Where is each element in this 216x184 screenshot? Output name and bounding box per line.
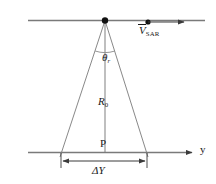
ground-range-axis-label: y (200, 144, 206, 155)
slant-range-subscript: 0 (105, 101, 109, 108)
antenna-apex-dot (102, 17, 108, 23)
look-angle-subscript: r (107, 57, 110, 64)
swath-width-label: ΔY (92, 165, 105, 176)
velocity-symbol: V (139, 24, 146, 36)
target-point-label: P (100, 138, 106, 149)
velocity-label: VSAR (139, 25, 159, 37)
slant-range-label: R0 (98, 96, 108, 108)
sar-geometry-figure: VSAR θr R0 P ΔY y (0, 0, 216, 184)
look-angle-label: θr (102, 52, 110, 64)
swath-width-symbol: ΔY (92, 164, 105, 176)
beam-left-edge-line (60, 21, 105, 158)
sar-geometry-drawing (0, 0, 216, 184)
velocity-subscript: SAR (146, 30, 160, 37)
beam-right-edge-line (105, 21, 148, 158)
slant-range-symbol: R (98, 95, 105, 107)
